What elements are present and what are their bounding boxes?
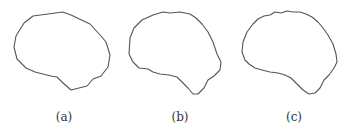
brain-contour-c: [242, 11, 337, 94]
caption-b: (b): [160, 110, 200, 124]
brain-contour-a: [14, 12, 110, 90]
brain-contour-b: [129, 12, 221, 94]
caption-c: (c): [274, 110, 314, 124]
caption-a: (a): [44, 110, 84, 124]
